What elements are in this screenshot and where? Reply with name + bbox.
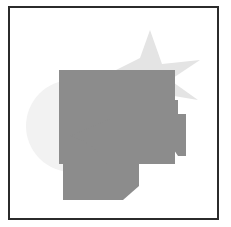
rectangle-shape <box>59 70 175 164</box>
figure-canvas <box>0 0 231 227</box>
shape-composition <box>10 8 217 218</box>
shape-stage <box>10 8 217 218</box>
bottom-polygon-shape <box>63 164 139 200</box>
